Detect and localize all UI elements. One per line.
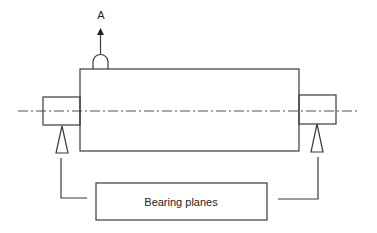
right-leader-line	[278, 157, 318, 199]
left-support-triangle-icon	[56, 126, 68, 153]
probe-dome	[93, 55, 108, 69]
arrow-up-icon	[97, 28, 104, 35]
shaft-diagram: A Bearing planes	[0, 0, 377, 233]
right-support-triangle-icon	[311, 124, 323, 152]
bearing-label: Bearing planes	[144, 196, 218, 208]
right-journal	[299, 95, 336, 124]
main-cylinder	[80, 69, 299, 151]
left-leader-line	[61, 158, 87, 198]
probe-label: A	[97, 9, 105, 21]
